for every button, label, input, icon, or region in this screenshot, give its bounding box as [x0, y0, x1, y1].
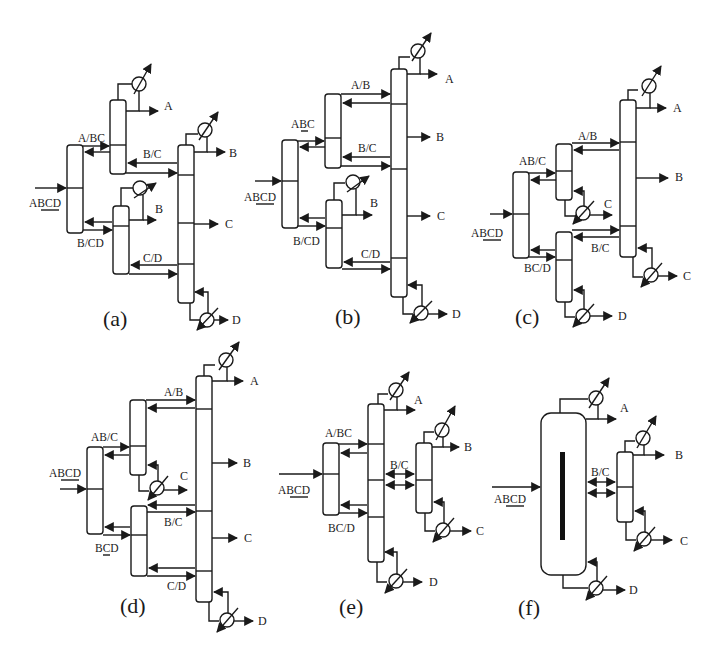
product-a: A [250, 374, 259, 388]
split-label-a-b: A/B [164, 386, 184, 398]
split-label-a-bc: A/BC [325, 427, 352, 439]
product-a: A [164, 99, 173, 113]
dividing-wall [560, 452, 565, 540]
feed-label: ABCD [471, 227, 503, 239]
product-b: B [464, 440, 472, 454]
feed-label: ABCD [244, 191, 276, 203]
column-lower [131, 506, 147, 576]
split-label-b-c: B/C [143, 148, 162, 160]
column-upper [110, 100, 126, 174]
product-c-side: C [180, 469, 188, 483]
split-label-b-c: B/C [591, 466, 610, 478]
product-b: B [436, 130, 444, 144]
column-prefractionator [323, 443, 339, 515]
split-label-c-d: C/D [361, 248, 380, 260]
panel-caption: (e) [339, 594, 363, 619]
split-label-b-c: B/C [358, 142, 377, 154]
split-label-c-d: C/D [167, 580, 186, 592]
product-c-side: C [604, 197, 612, 211]
panel-f: ABCD A B/C B C D (f) [492, 378, 688, 620]
split-label-ab-c: AB/C [91, 431, 118, 443]
panel-caption: (b) [335, 304, 361, 329]
column-main [368, 404, 384, 562]
product-d: D [618, 309, 627, 323]
condenser-icon [133, 181, 147, 195]
column-prefractionator [67, 145, 83, 233]
product-b: B [675, 170, 683, 184]
split-label-b-cd: B/CD [293, 235, 320, 247]
column-main [391, 69, 407, 297]
panel-e: ABCD A/BC BC/D A B/C B C [278, 372, 484, 619]
column-lower [326, 200, 342, 268]
panel-caption: (d) [120, 593, 146, 618]
column-upper [130, 400, 146, 475]
product-d: D [429, 575, 438, 589]
panel-b: ABCD ABC B/CD B A/B B/C C/D [244, 33, 461, 329]
panel-caption: (f) [518, 595, 540, 620]
product-b: B [675, 448, 683, 462]
product-b-side: B [155, 202, 163, 216]
split-label-c-d: C/D [143, 252, 162, 264]
panel-d: ABCD AB/C C BCD A/B B/C C/D [49, 342, 267, 632]
product-c: C [225, 217, 233, 231]
feed-label: ABCD [278, 484, 310, 496]
column-upper [325, 94, 341, 168]
product-c: C [680, 534, 688, 548]
panel-a: ABCD A/BC A B/CD B B/C [29, 64, 241, 331]
product-d: D [452, 307, 461, 321]
product-b: B [229, 146, 237, 160]
column-lower [113, 206, 129, 274]
product-d: D [232, 313, 241, 327]
product-c: C [437, 209, 445, 223]
product-a: A [445, 72, 454, 86]
column-main [620, 100, 636, 257]
feed-label: ABCD [49, 467, 81, 479]
product-a: A [414, 393, 423, 407]
panel-c: ABCD AB/C C BC/D D A/B B/C [471, 66, 691, 329]
column-side [416, 443, 432, 513]
reboiler-icon [414, 306, 428, 320]
split-label-a-b: A/B [578, 130, 598, 142]
product-a: A [673, 101, 682, 115]
product-c: C [476, 524, 484, 538]
split-label-b-c: B/C [390, 459, 409, 471]
split-label-a-bc: A/BC [78, 132, 105, 144]
split-label-bcd: BCD [95, 542, 119, 554]
product-a: A [620, 401, 629, 415]
split-label-b-c: B/C [164, 516, 183, 528]
product-c: C [244, 531, 252, 545]
split-label-b-c: B/C [591, 242, 610, 254]
split-label-bc-d: BC/D [524, 262, 551, 274]
column-prefractionator [87, 447, 103, 534]
split-label-abc: ABC [291, 118, 315, 130]
distillation-configurations-figure: ABCD A/BC A B/CD B B/C [0, 0, 723, 658]
column-lower [556, 232, 572, 302]
column-main [196, 376, 212, 602]
panel-caption: (c) [515, 304, 539, 329]
product-d: D [629, 583, 638, 597]
column-prefractionator [513, 172, 529, 258]
split-label-b-cd: B/CD [77, 237, 104, 249]
split-label-bc-d: BC/D [328, 522, 355, 534]
column-prefractionator [282, 140, 298, 228]
panel-caption: (a) [103, 306, 127, 331]
split-label-ab-c: AB/C [519, 155, 546, 167]
feed-label: ABCD [494, 493, 526, 505]
split-label-a-b: A/B [351, 79, 371, 91]
column-upper [556, 144, 572, 200]
column-main [178, 145, 194, 303]
product-b: B [243, 456, 251, 470]
product-b-side: B [370, 196, 378, 210]
feed-label: ABCD [29, 197, 61, 209]
product-d: D [258, 614, 267, 628]
product-c: C [683, 269, 691, 283]
